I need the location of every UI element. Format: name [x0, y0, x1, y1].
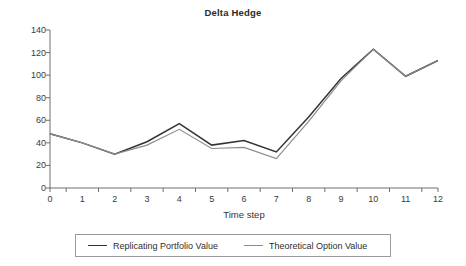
- y-axis-tick-label: 40: [12, 138, 46, 148]
- legend-label: Replicating Portfolio Value: [113, 241, 218, 251]
- x-axis-tick-label: 10: [363, 194, 383, 204]
- chart-svg: [50, 30, 438, 188]
- y-axis-tick-label: 80: [12, 93, 46, 103]
- x-axis-tick-label: 11: [396, 194, 416, 204]
- legend-line-icon: [88, 245, 107, 246]
- y-axis-tick-label: 0: [12, 183, 46, 193]
- x-axis-tick-label: 9: [331, 194, 351, 204]
- x-axis-tick-label: 2: [105, 194, 125, 204]
- y-axis-tick-label: 60: [12, 115, 46, 125]
- y-axis-tick-label: 140: [12, 25, 46, 35]
- chart-title: Delta Hedge: [0, 7, 466, 18]
- legend-label: Theoretical Option Value: [269, 241, 367, 251]
- legend-item-theoretical-option: Theoretical Option Value: [244, 241, 367, 251]
- x-axis-tick-label: 12: [428, 194, 448, 204]
- y-axis-tick-label: 120: [12, 48, 46, 58]
- chart-legend: Replicating Portfolio Value Theoretical …: [75, 234, 391, 257]
- y-axis-tick-label: 20: [12, 160, 46, 170]
- x-axis-title: Time step: [50, 209, 438, 220]
- x-axis-tick-label: 5: [202, 194, 222, 204]
- legend-item-replicating-portfolio: Replicating Portfolio Value: [88, 241, 218, 251]
- y-axis-tick-labels: 020406080100120140: [8, 30, 46, 188]
- x-axis-tick-label: 1: [72, 194, 92, 204]
- series-line-2: [50, 49, 438, 158]
- series-group: [50, 49, 438, 158]
- x-axis-tick-labels: 0123456789101112: [50, 192, 438, 206]
- plot-area: [50, 30, 438, 188]
- x-axis-tick-label: 8: [299, 194, 319, 204]
- legend-line-icon: [244, 245, 263, 246]
- x-axis-tick-label: 7: [266, 194, 286, 204]
- x-axis-tick-label: 4: [169, 194, 189, 204]
- x-axis-tick-label: 0: [40, 194, 60, 204]
- y-axis-tick-label: 100: [12, 70, 46, 80]
- series-line-1: [50, 49, 438, 154]
- chart-figure: Delta Hedge 020406080100120140 012345678…: [0, 0, 466, 266]
- x-axis-tick-label: 3: [137, 194, 157, 204]
- x-axis-tick-label: 6: [234, 194, 254, 204]
